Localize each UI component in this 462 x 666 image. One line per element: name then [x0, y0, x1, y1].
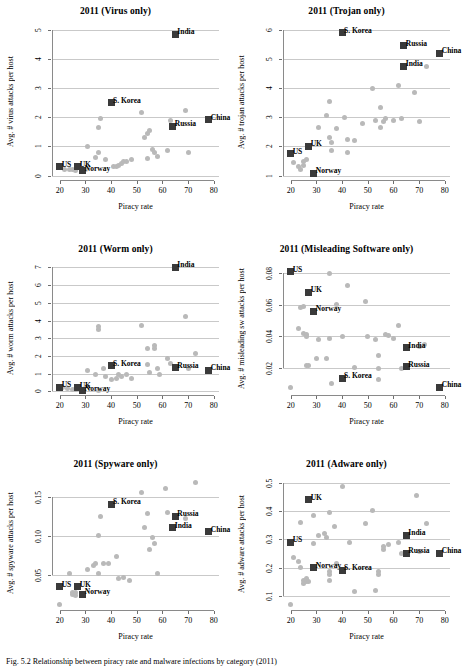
data-point	[114, 554, 119, 559]
x-tick-mark	[162, 396, 163, 399]
data-point	[324, 356, 329, 361]
data-point	[142, 525, 147, 530]
data-point	[139, 110, 144, 115]
x-tick-label: 80	[202, 186, 226, 195]
data-point	[381, 544, 386, 549]
y-tick-label: 3	[30, 76, 46, 100]
data-point	[316, 533, 321, 538]
x-tick-label: 80	[433, 616, 457, 625]
chart-panel: 2011 (Adware only)Avg. # adware attacks …	[231, 437, 462, 652]
y-tick-label: 0.08	[261, 261, 277, 285]
country-label: Norway	[85, 384, 110, 393]
country-label: Norway	[316, 304, 341, 313]
data-point	[129, 376, 134, 381]
y-axis-spine	[52, 30, 53, 176]
x-tick-label: 20	[279, 616, 303, 625]
data-point	[378, 125, 383, 130]
y-tick-mark	[48, 374, 51, 375]
country-label: UK	[311, 493, 322, 502]
x-tick-label: 30	[304, 616, 328, 625]
country-label: US	[62, 160, 72, 169]
x-axis-label: Piracy rate	[283, 417, 450, 426]
y-tick-label: 0.05	[30, 563, 46, 587]
data-point	[376, 377, 381, 382]
data-point	[345, 137, 350, 142]
data-point	[306, 579, 311, 584]
data-point	[142, 135, 147, 140]
x-tick-mark	[137, 181, 138, 184]
x-tick-label: 50	[125, 616, 149, 625]
data-point	[57, 602, 62, 607]
data-point	[345, 283, 350, 288]
data-point	[383, 116, 388, 121]
country-label: S. Korea	[113, 359, 141, 368]
country-label: S. Korea	[344, 371, 372, 380]
y-tick-label: 5	[261, 47, 277, 71]
y-tick-label: 2	[261, 134, 277, 158]
x-tick-mark	[188, 611, 189, 614]
x-tick-mark	[60, 396, 61, 399]
x-tick-mark	[393, 396, 394, 399]
chart-title: 2011 (Misleading Software only)	[231, 244, 462, 254]
x-tick-mark	[342, 396, 343, 399]
data-point	[103, 157, 108, 162]
data-point	[296, 559, 301, 564]
data-point	[391, 336, 396, 341]
x-axis-label: Piracy rate	[52, 202, 219, 211]
data-point	[291, 160, 296, 165]
data-point	[365, 334, 370, 339]
gridline	[283, 596, 450, 597]
data-point	[417, 119, 422, 124]
data-point	[93, 561, 98, 566]
x-tick-mark	[111, 396, 112, 399]
y-tick-mark	[279, 336, 282, 337]
x-tick-label: 60	[381, 616, 405, 625]
y-tick-mark	[279, 88, 282, 89]
x-tick-mark	[316, 181, 317, 184]
x-tick-label: 80	[202, 401, 226, 410]
chart-panel: 2011 (Worm only)Avg. # worm attacks per …	[0, 222, 231, 437]
data-point	[316, 125, 321, 130]
y-axis-spine	[52, 267, 53, 391]
y-axis-spine	[283, 30, 284, 176]
data-point	[165, 148, 170, 153]
x-tick-label: 30	[73, 616, 97, 625]
gridline	[283, 176, 450, 177]
x-tick-label: 70	[407, 616, 431, 625]
data-point	[376, 366, 381, 371]
x-tick-label: 60	[381, 401, 405, 410]
x-tick-label: 60	[381, 186, 405, 195]
x-tick-label: 80	[202, 616, 226, 625]
country-label: US	[293, 147, 303, 156]
x-tick-mark	[368, 611, 369, 614]
country-label: India	[408, 341, 425, 350]
data-point	[329, 148, 334, 153]
x-tick-mark	[85, 611, 86, 614]
x-tick-mark	[419, 181, 420, 184]
country-label: S. Korea	[344, 563, 372, 572]
gridline	[283, 117, 450, 118]
x-tick-mark	[188, 181, 189, 184]
country-label: Norway	[85, 587, 110, 596]
y-tick-mark	[48, 117, 51, 118]
x-tick-label: 30	[304, 401, 328, 410]
data-point	[352, 589, 357, 594]
country-label: China	[211, 363, 231, 372]
country-label: Russia	[175, 119, 196, 128]
data-point	[352, 138, 357, 143]
data-point	[145, 346, 150, 351]
chart-title: 2011 (Spyware only)	[0, 459, 231, 469]
data-point	[139, 490, 144, 495]
x-tick-label: 50	[356, 616, 380, 625]
data-point	[163, 486, 168, 491]
data-point	[396, 540, 401, 545]
x-tick-label: 70	[176, 616, 200, 625]
chart-panel: 2011 (Virus only)Avg. # virus attacks pe…	[0, 0, 231, 222]
country-label: India	[177, 260, 194, 269]
x-tick-mark	[162, 611, 163, 614]
y-tick-mark	[48, 391, 51, 392]
data-point	[155, 154, 160, 159]
data-point	[414, 493, 419, 498]
x-tick-mark	[85, 396, 86, 399]
data-point	[85, 368, 90, 373]
